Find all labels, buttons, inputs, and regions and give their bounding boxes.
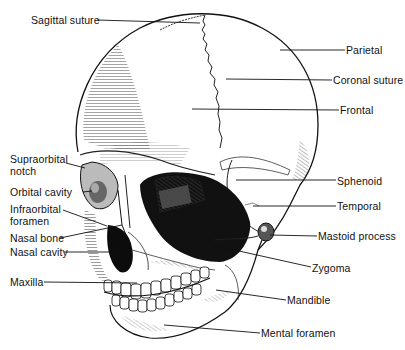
label-nasal-cavity: Nasal cavity: [10, 246, 68, 258]
label-supraorbital-notch-line1: Supraorbital: [10, 153, 68, 165]
mastoid-process-shape: [258, 223, 274, 241]
label-nasal-bone: Nasal bone: [10, 232, 64, 244]
label-parietal: Parietal: [346, 44, 382, 56]
label-infraorbital-foramen-line2: foramen: [10, 215, 49, 227]
label-temporal: Temporal: [337, 200, 381, 212]
label-mastoid-process: Mastoid process: [318, 230, 396, 242]
label-sagittal-suture: Sagittal suture: [31, 14, 100, 26]
label-coronal-suture: Coronal suture: [333, 74, 403, 86]
label-mandible: Mandible: [287, 294, 330, 306]
coronal-suture-line: [202, 15, 222, 148]
label-maxilla: Maxilla: [10, 276, 43, 288]
label-sphenoid: Sphenoid: [337, 175, 382, 187]
nasal-cavity-shape: [107, 225, 133, 272]
label-infraorbital-foramen-line1: Infraorbital: [10, 203, 61, 215]
leader-mental-foramen: [164, 325, 260, 333]
label-supraorbital-notch-line2: notch: [10, 165, 36, 177]
label-frontal: Frontal: [340, 104, 373, 116]
leader-sagittal-suture: [97, 20, 200, 23]
label-orbital-cavity: Orbital cavity: [10, 186, 72, 198]
label-zygoma: Zygoma: [312, 262, 351, 274]
skull-diagram: Sagittal suture Parietal Coronal suture …: [0, 0, 405, 350]
leader-coronal-suture: [226, 79, 332, 80]
leader-mastoid-process: [270, 235, 317, 236]
label-mental-foramen: Mental foramen: [261, 327, 335, 339]
leader-maxilla: [44, 282, 137, 283]
